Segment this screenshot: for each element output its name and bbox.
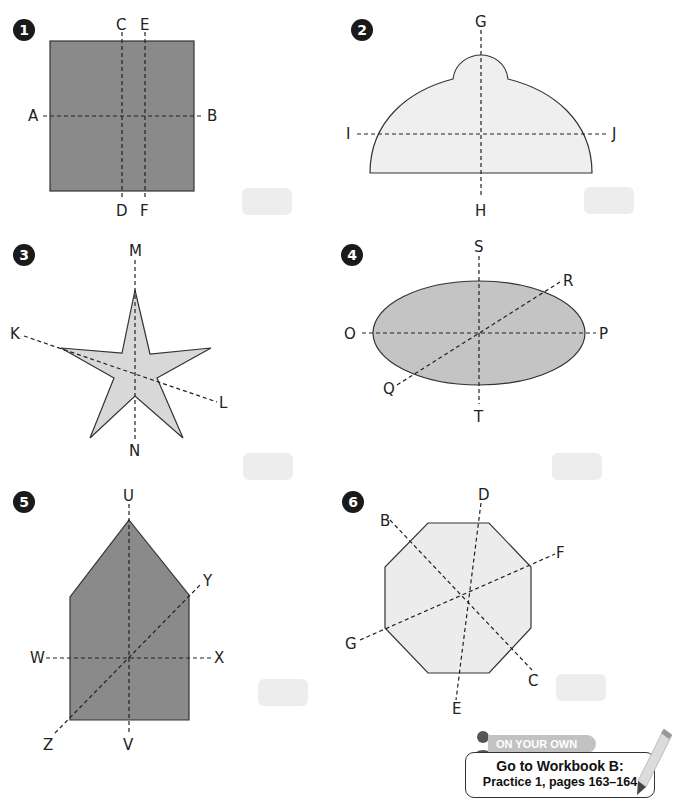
problem-number-5: 5 [19, 494, 29, 510]
workbook-reference-title: Go to Workbook B: [466, 758, 654, 774]
label-b: B [207, 107, 217, 125]
label-p: P [599, 325, 608, 343]
label-c: C [528, 672, 538, 690]
label-g: G [345, 635, 357, 653]
label-d: D [116, 202, 128, 220]
problem-5: 5 U V W X Y Z [13, 487, 224, 754]
label-s: S [474, 238, 484, 256]
answer-box-2[interactable] [584, 187, 634, 214]
label-r: R [563, 272, 573, 290]
label-e: E [452, 700, 461, 718]
pencil-icon [634, 727, 674, 797]
label-j: J [611, 125, 616, 143]
label-u: U [123, 487, 134, 505]
label-g: G [475, 13, 487, 31]
label-k: K [10, 325, 21, 343]
problem-3: 3 M N K L [10, 242, 228, 460]
problem-1: 1 A B C D E F [13, 16, 217, 220]
label-l: L [219, 394, 228, 412]
problem-number-1: 1 [19, 22, 29, 38]
octagon-shape [385, 523, 531, 673]
label-f: F [556, 544, 565, 562]
label-o: O [344, 325, 356, 343]
answer-box-6[interactable] [556, 674, 606, 701]
label-y: Y [202, 572, 213, 590]
answer-box-4[interactable] [552, 453, 602, 480]
label-n: N [129, 442, 140, 460]
workbook-reference-pages: Practice 1, pages 163–164 [466, 775, 654, 789]
problem-number-6: 6 [348, 494, 358, 510]
label-h: H [475, 202, 486, 220]
label-b: B [380, 512, 390, 530]
label-w: W [30, 649, 45, 667]
label-d: D [478, 486, 490, 504]
problem-2: 2 G H I J [346, 13, 616, 220]
label-m: M [129, 242, 142, 260]
problem-number-3: 3 [19, 247, 29, 263]
label-e: E [140, 16, 149, 34]
problem-number-2: 2 [357, 22, 367, 38]
label-v: V [123, 736, 134, 754]
label-t: T [473, 408, 484, 426]
answer-box-1[interactable] [242, 188, 292, 215]
label-z: Z [43, 736, 53, 754]
label-q: Q [383, 380, 395, 398]
label-a: A [28, 107, 39, 125]
answer-box-5[interactable] [258, 679, 308, 706]
label-c: C [116, 16, 126, 34]
workbook-reference-box: Go to Workbook B: Practice 1, pages 163–… [465, 752, 655, 798]
on-your-own-callout: ON YOUR OWN Go to Workbook B: Practice 1… [452, 727, 670, 801]
label-x: X [214, 649, 224, 667]
on-your-own-banner: ON YOUR OWN [488, 735, 596, 753]
label-i: I [346, 125, 350, 143]
problem-4: 4 S T O P Q R [341, 238, 608, 426]
answer-box-3[interactable] [243, 453, 293, 480]
label-f: F [140, 202, 149, 220]
problem-number-4: 4 [347, 247, 357, 263]
problem-6: 6 B C D E F G [342, 486, 565, 718]
star-shape [61, 290, 211, 438]
